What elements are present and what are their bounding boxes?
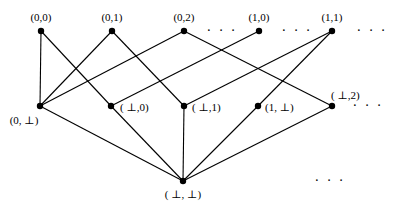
node-label: ( ⊥,0) — [120, 101, 149, 114]
edge-n00-n0b — [40, 31, 41, 106]
node-n00 — [38, 28, 44, 34]
edge-n10-nb0 — [111, 31, 259, 106]
node-label: (1, ⊥) — [265, 101, 294, 114]
node-label: (0,2) — [173, 11, 194, 24]
ellipsis-top-dots-1: · · · — [207, 23, 238, 38]
ellipses-layer: · · ·· · ·· · ·· · ·· · · — [207, 23, 388, 188]
edge-n02-n0b — [40, 31, 184, 106]
edge-n01-nb1 — [112, 31, 184, 106]
node-label: (0,1) — [101, 11, 122, 24]
ellipsis-top-dots-2: · · · — [282, 23, 313, 38]
node-n11 — [329, 28, 335, 34]
node-nb1 — [181, 103, 187, 109]
node-label: (0,0) — [30, 11, 51, 24]
node-label: ( ⊥, ⊥) — [165, 188, 202, 201]
edge-nb0-nbb — [111, 106, 183, 181]
ellipsis-mid-dots: · · · — [353, 98, 384, 113]
edge-nb2-nbb — [183, 106, 332, 181]
ellipsis-top-dots-3: · · · — [357, 23, 388, 38]
node-n01 — [109, 28, 115, 34]
edge-n11-n1b — [258, 31, 332, 106]
node-label: ( ⊥,1) — [192, 101, 221, 114]
node-label: (1,1) — [321, 11, 342, 24]
node-nb0 — [108, 103, 114, 109]
edge-nb1-nbb — [183, 106, 184, 181]
ellipsis-bottom-dots: · · · — [315, 173, 346, 188]
node-nb2 — [329, 103, 335, 109]
node-n10 — [256, 28, 262, 34]
edge-n0b-nbb — [40, 106, 183, 181]
node-nbb — [180, 178, 186, 184]
node-n02 — [181, 28, 187, 34]
node-n0b — [37, 103, 43, 109]
node-n1b — [255, 103, 261, 109]
node-label: (0, ⊥) — [10, 114, 39, 127]
edge-n1b-nbb — [183, 106, 258, 181]
node-label: (1,0) — [248, 11, 269, 24]
hasse-diagram: (0,0)(0,1)(0,2)(1,0)(1,1)(0, ⊥)( ⊥,0)( ⊥… — [0, 0, 394, 206]
